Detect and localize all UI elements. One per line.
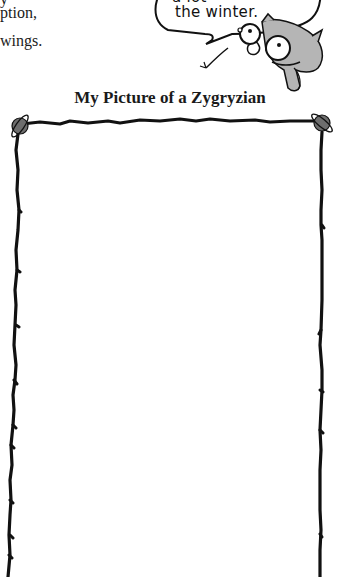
speech-bubble-line-2: the winter.	[175, 3, 258, 21]
worksheet-title: My Picture of a Zygryzian	[0, 88, 340, 108]
drawing-area[interactable]	[20, 125, 315, 577]
